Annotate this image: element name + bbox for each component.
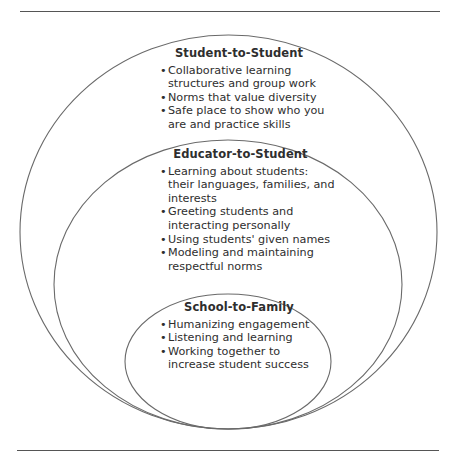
list-item: Collaborative learning structures and gr… bbox=[160, 64, 330, 91]
student-to-student-list: Collaborative learning structures and gr… bbox=[160, 64, 330, 132]
list-item: Modeling and maintaining respectful norm… bbox=[160, 246, 335, 273]
list-item: Listening and learning bbox=[160, 331, 330, 345]
school-to-family-list: Humanizing engagement Listening and lear… bbox=[160, 318, 330, 372]
educator-to-student-section: Educator-to-Student Learning about stude… bbox=[160, 148, 335, 273]
list-item: Learning about students: their languages… bbox=[160, 165, 335, 206]
list-item: Safe place to show who you are and pract… bbox=[160, 104, 330, 131]
school-to-family-section: School-to-Family Humanizing engagement L… bbox=[160, 301, 330, 372]
list-item: Norms that value diversity bbox=[160, 91, 330, 105]
list-item: Working together to increase student suc… bbox=[160, 345, 330, 372]
student-to-student-heading: Student-to-Student bbox=[148, 47, 330, 61]
educator-to-student-heading: Educator-to-Student bbox=[146, 148, 335, 162]
list-item: Greeting students and interacting person… bbox=[160, 205, 335, 232]
list-item: Humanizing engagement bbox=[160, 318, 330, 332]
school-to-family-heading: School-to-Family bbox=[148, 301, 330, 315]
educator-to-student-list: Learning about students: their languages… bbox=[160, 165, 335, 274]
list-item: Using students' given names bbox=[160, 233, 335, 247]
student-to-student-section: Student-to-Student Collaborative learnin… bbox=[160, 47, 330, 132]
